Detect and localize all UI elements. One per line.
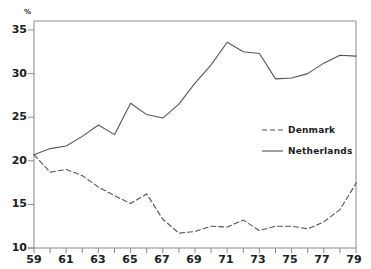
legend-key-lines <box>262 130 283 151</box>
plot-area <box>0 0 371 269</box>
chart-container: % 35 30 25 20 15 10 59 61 63 65 67 69 71… <box>0 0 371 269</box>
data-series-group <box>34 42 356 233</box>
series-line-denmark <box>34 155 356 233</box>
series-line-netherlands <box>34 42 356 154</box>
axis-ticks <box>28 30 356 253</box>
axes-frame <box>28 21 356 248</box>
